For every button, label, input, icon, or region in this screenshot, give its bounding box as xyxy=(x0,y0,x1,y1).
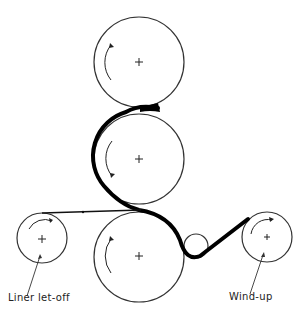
calender-diagram xyxy=(0,0,302,314)
arrowhead-icon xyxy=(110,173,115,178)
liner-path xyxy=(42,210,141,213)
wind-up-label: Wind-up xyxy=(229,291,273,302)
liner-let-off-roll xyxy=(17,213,67,263)
top-calender-roll xyxy=(94,17,184,107)
arrowhead-icon xyxy=(49,218,53,223)
liner-joint-marker xyxy=(82,211,84,213)
rotation-arrow-icon xyxy=(251,219,272,234)
rotation-arrow-icon xyxy=(29,220,52,229)
rotation-arrow-icon xyxy=(105,45,111,80)
rotation-arrow-icon xyxy=(106,141,112,176)
calendered-sheet-path xyxy=(93,107,248,258)
arrowhead-icon xyxy=(109,43,114,48)
arrowhead-icon xyxy=(109,236,114,241)
arrowhead-icon xyxy=(269,217,274,222)
leader-arrow-icon xyxy=(38,254,42,259)
wind-up-leader xyxy=(250,255,263,294)
leader-arrow-icon xyxy=(261,252,265,257)
rotation-arrow-icon xyxy=(105,239,111,273)
liner-let-off-label: Liner let-off xyxy=(8,292,70,303)
